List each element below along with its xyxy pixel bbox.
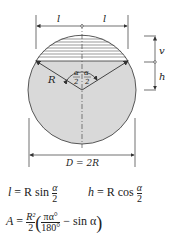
formula-area-inner-den: 180° (41, 223, 60, 233)
formula-area-inner-frac: πα°180° (41, 212, 60, 233)
formula-l-frac-den: 2 (52, 194, 57, 204)
circular-segment-diagram: l l v h R α 2 α 2 D = 2R (0, 0, 174, 242)
right-dim-center-dot (154, 61, 157, 64)
label-radius: R (47, 74, 56, 85)
formula-area: A = R²2(πα°180° − sin α) (6, 212, 102, 233)
label-h: h (159, 71, 165, 82)
formula-area-eq: = (13, 214, 26, 228)
label-half-angle-left-num: α (74, 69, 79, 77)
label-half-angle-right-den: 2 (84, 78, 90, 86)
paren-close: ) (96, 213, 102, 233)
formula-area-tail: − sin α (60, 214, 96, 228)
formula-l: l = R sin α2 (8, 183, 57, 204)
formula-area-frac-den: 2 (26, 223, 35, 233)
formula-l-frac: α2 (52, 183, 57, 204)
label-half-angle-right-num: α (84, 69, 89, 77)
formula-l-eq: = R sin (11, 185, 52, 199)
formula-area-frac: R²2 (26, 212, 35, 233)
formula-h-eq: = R cos (94, 185, 137, 199)
top-dim-center-dot (81, 25, 84, 28)
label-diameter: D = 2R (65, 158, 99, 168)
formula-h-frac: α2 (137, 183, 142, 204)
label-half-angle-left-den: 2 (73, 78, 79, 86)
label-v: v (159, 45, 165, 56)
formula-h-frac-den: 2 (137, 194, 142, 204)
label-l-right: l (103, 13, 106, 24)
formula-h: h = R cos α2 (88, 183, 142, 204)
label-l-left: l (57, 13, 60, 24)
